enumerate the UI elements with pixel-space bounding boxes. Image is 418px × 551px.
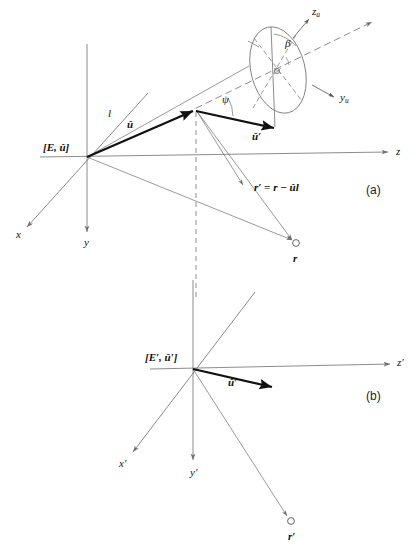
- panel-a-group: [27, 19, 388, 300]
- point-r-prime: [288, 518, 295, 525]
- disc-ellipse: [241, 21, 315, 119]
- diagram-svg: [0, 0, 418, 551]
- panel-b-group: [133, 280, 390, 524]
- point-label-r-prime: r′: [288, 531, 295, 542]
- panel-label-b: (b): [366, 390, 381, 402]
- axis-label-z: z: [396, 146, 400, 157]
- axis-label-y-prime: y′: [190, 467, 197, 478]
- axis-label-z-prime: z′: [397, 357, 404, 368]
- disc-diameter-y-sub-u: [254, 38, 302, 101]
- axis-x-prime: [133, 292, 255, 452]
- origin-label-b: [E′, û′]: [145, 352, 177, 363]
- axis-label-z-sub-u: zu: [312, 6, 320, 18]
- vector-label-u-hat-prime: û′: [252, 131, 261, 142]
- point-label-r: r: [293, 253, 297, 264]
- axis-label-y-sub-u-sub: u: [345, 96, 349, 105]
- figure-canvas: [E, û] x y z l û û′ ψ β zu yu r′ = r − û…: [0, 0, 418, 551]
- axis-label-y: y: [84, 237, 89, 248]
- axis-z-prime: [150, 364, 390, 369]
- vector-label-u-hat: û: [127, 119, 133, 130]
- equation-r-prime: r′ = r − ûl: [254, 182, 299, 193]
- axis-label-x-prime: x′: [119, 458, 126, 469]
- point-r: [293, 240, 300, 247]
- ray-origin-upright: [87, 66, 249, 157]
- angle-label-beta: β: [285, 38, 290, 49]
- rotated-frame-disc: [241, 19, 334, 127]
- vector-label-u-hat-prime-b: û′: [228, 377, 237, 388]
- panel-label-a: (a): [366, 184, 381, 196]
- axis-x: [27, 93, 148, 227]
- axis-y-sub-u-arrow: [312, 85, 334, 97]
- axis-label-x: x: [16, 229, 21, 240]
- ray-origin-to-r-prime: [193, 369, 287, 516]
- axis-label-y-sub-u: yu: [340, 92, 349, 104]
- angle-label-psi: ψ: [222, 94, 229, 105]
- segment-length-label-l: l: [108, 108, 111, 119]
- ray-rprime-annotation: [196, 110, 243, 185]
- origin-label-a: [E, û]: [43, 142, 69, 153]
- vector-u-hat: [87, 111, 193, 157]
- disc-rim-tick: [248, 41, 259, 47]
- axis-z-sub-u-arrow: [293, 19, 309, 38]
- axis-label-z-sub-u-sub: u: [316, 10, 320, 19]
